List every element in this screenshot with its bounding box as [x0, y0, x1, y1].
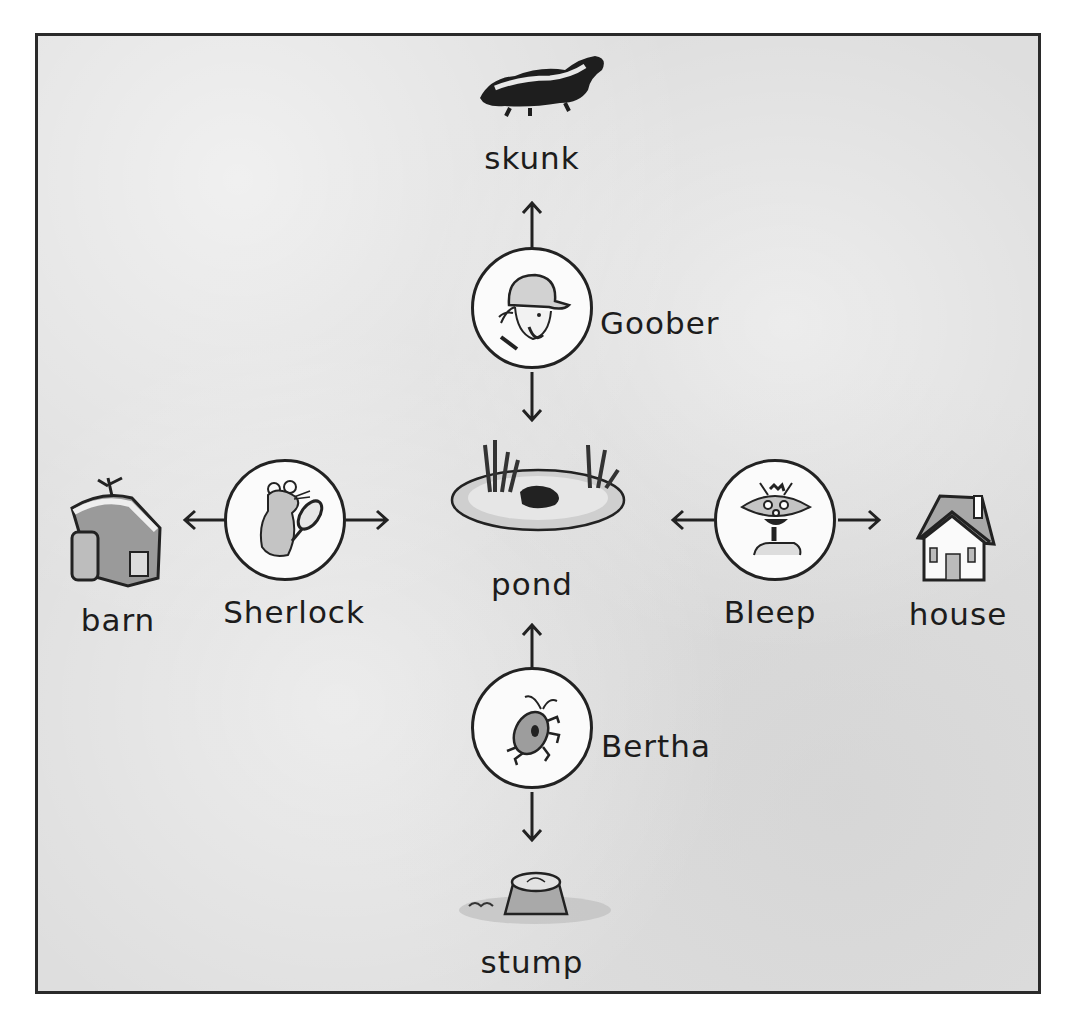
arrow-bertha-to-pond: [520, 622, 544, 668]
arrow-bertha-to-stump: [520, 792, 544, 844]
house-label: house: [909, 596, 1007, 632]
robot-alien-icon: [730, 475, 820, 565]
arrow-bleep-to-house: [838, 508, 882, 532]
arrow-bleep-to-pond: [670, 508, 714, 532]
arrow-goober-to-skunk: [520, 200, 544, 250]
house-icon: [912, 488, 998, 588]
arrow-sherlock-to-pond: [346, 508, 390, 532]
bertha-node: [471, 667, 593, 789]
pond-label: pond: [491, 566, 573, 602]
skunk-label: skunk: [484, 140, 579, 176]
goober-label: Goober: [600, 305, 719, 341]
bleep-label: Bleep: [724, 594, 817, 630]
arrow-goober-to-pond: [520, 372, 544, 424]
bug-icon: [487, 683, 577, 773]
barn-label: barn: [81, 602, 156, 638]
stump-label: stump: [481, 944, 584, 980]
bertha-label: Bertha: [601, 728, 711, 764]
mouse-detective-icon: [240, 475, 330, 565]
stump-icon: [455, 860, 615, 930]
barn-icon: [62, 468, 162, 588]
sherlock-node: [224, 459, 346, 581]
arrow-sherlock-to-barn: [182, 508, 226, 532]
farmer-face-icon: [487, 263, 577, 353]
skunk-icon: [470, 48, 610, 118]
sherlock-label: Sherlock: [223, 594, 365, 630]
goober-node: [471, 247, 593, 369]
bleep-node: [714, 459, 836, 581]
pond-icon: [440, 430, 630, 540]
